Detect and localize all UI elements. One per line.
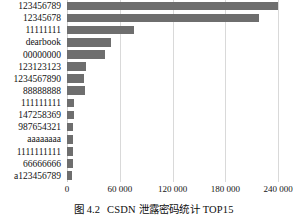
y-axis-label: 1234567890	[0, 73, 64, 85]
caption-number: 图 4.2	[74, 204, 100, 215]
bar	[67, 135, 73, 144]
bar-row	[67, 109, 278, 121]
y-axis-label: 147258369	[0, 109, 64, 121]
x-tick-label: 120 000	[158, 183, 187, 195]
bar-row	[67, 0, 278, 12]
x-tick-label: 180 000	[211, 183, 240, 195]
caption-text: CSDN 泄露密码统计 TOP15	[107, 204, 234, 215]
bar	[67, 38, 111, 47]
x-tick-label: 240 000	[263, 183, 292, 195]
gridline-240000	[278, 0, 279, 182]
bar-row	[67, 36, 278, 48]
bar-row	[67, 12, 278, 24]
bar	[67, 147, 73, 156]
bar-row	[67, 121, 278, 133]
y-axis-label: aaaaaaaa	[0, 133, 64, 145]
bar-row	[67, 170, 278, 182]
x-tick-label: 0	[65, 183, 70, 195]
y-axis-label: 12345678	[0, 12, 64, 24]
bar	[67, 86, 85, 95]
x-tick-label: 60 000	[107, 183, 132, 195]
figure-csdn-password-top15: 1234567891234567811111111dearbook0000000…	[0, 0, 308, 224]
bar	[67, 171, 72, 180]
y-axis-label: dearbook	[0, 36, 64, 48]
bar-row	[67, 24, 278, 36]
x-axis-tick-labels: 060 000120 000180 000240 000	[0, 183, 308, 197]
bar	[67, 123, 73, 132]
y-axis-label: 88888888	[0, 85, 64, 97]
y-axis-label: 66666666	[0, 158, 64, 170]
bar	[67, 50, 105, 59]
y-axis-label: 123123123	[0, 61, 64, 73]
bar-row	[67, 85, 278, 97]
bar-row	[67, 49, 278, 61]
y-axis-label: 987654321	[0, 121, 64, 133]
y-axis-label: 111111111	[0, 97, 64, 109]
bar-row	[67, 61, 278, 73]
figure-caption: 图 4.2CSDN 泄露密码统计 TOP15	[0, 203, 308, 217]
bar	[67, 74, 84, 83]
bar	[67, 62, 86, 71]
bar	[67, 26, 134, 35]
y-axis-category-labels: 1234567891234567811111111dearbook0000000…	[0, 0, 64, 182]
bar	[67, 111, 74, 120]
bar	[67, 2, 278, 11]
bar-row	[67, 73, 278, 85]
y-axis-label: 123456789	[0, 0, 64, 12]
bar	[67, 159, 73, 168]
bars-container	[67, 0, 278, 182]
bar-row	[67, 97, 278, 109]
bar	[67, 99, 74, 108]
bar-row	[67, 158, 278, 170]
y-axis-label: 00000000	[0, 49, 64, 61]
bar-chart-plot: 1234567891234567811111111dearbook0000000…	[0, 0, 308, 186]
bar-row	[67, 133, 278, 145]
bar	[67, 14, 259, 23]
y-axis-label: 1111111111	[0, 146, 64, 158]
bar-row	[67, 146, 278, 158]
y-axis-label: a123456789	[0, 170, 64, 182]
y-axis-label: 11111111	[0, 24, 64, 36]
